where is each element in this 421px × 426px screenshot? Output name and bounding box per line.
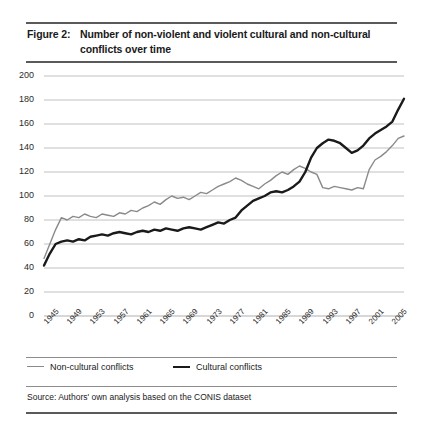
figure-number: Figure 2: [27, 27, 80, 42]
legend-item-non-cultural: Non-cultural conflicts [27, 362, 134, 372]
line-chart-svg [0, 62, 421, 318]
y-axis-tick-label: 120 [8, 166, 34, 176]
source-rule-bottom [26, 412, 397, 414]
y-axis-tick-label: 60 [8, 238, 34, 248]
legend-line-icon-non-cultural [27, 366, 44, 367]
legend-rule-top [26, 357, 397, 358]
legend-label-non-cultural: Non-cultural conflicts [50, 362, 134, 372]
figure-source: Source: Authors' own analysis based on t… [27, 392, 251, 402]
legend-item-cultural: Cultural conflicts [173, 362, 262, 372]
chart-plot-area: 020406080100120140160180200 [0, 62, 421, 318]
legend-line-icon-cultural [173, 366, 190, 368]
figure-title-text: Number of non-violent and violent cultur… [80, 27, 380, 57]
y-axis-tick-label: 100 [8, 190, 34, 200]
legend-rule-bottom [26, 386, 397, 387]
x-axis-tick-labels: 1945194919531957196119651969197319771981… [0, 318, 421, 352]
y-axis-tick-label: 180 [8, 94, 34, 104]
gridlines-group [44, 76, 404, 316]
y-axis-tick-label: 80 [8, 214, 34, 224]
y-axis-tick-label: 20 [8, 286, 34, 296]
legend-label-cultural: Cultural conflicts [196, 362, 262, 372]
title-rule-top [26, 22, 397, 24]
y-axis-tick-label: 200 [8, 70, 34, 80]
y-axis-tick-label: 160 [8, 118, 34, 128]
series-line-non-cultural [44, 136, 404, 258]
y-axis-tick-label: 40 [8, 262, 34, 272]
figure-title: Figure 2:Number of non-violent and viole… [27, 27, 395, 57]
figure-container: Figure 2:Number of non-violent and viole… [0, 0, 421, 426]
y-axis-tick-label: 140 [8, 142, 34, 152]
